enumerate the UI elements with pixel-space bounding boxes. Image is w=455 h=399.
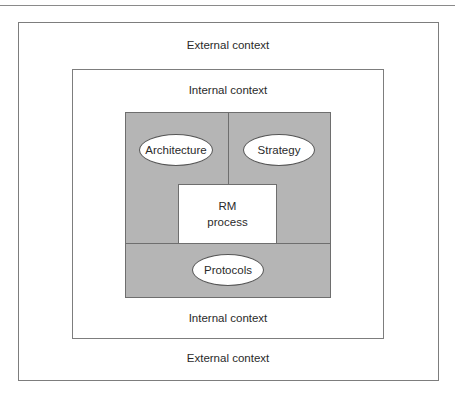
vertical-divider (228, 112, 229, 184)
internal-context-top-label: Internal context (189, 84, 268, 96)
rm-process-line1: RM (219, 198, 237, 214)
rm-process-box: RM process (178, 184, 277, 244)
external-context-bottom-label: External context (187, 352, 269, 364)
strategy-node: Strategy (243, 134, 315, 166)
architecture-node: Architecture (139, 134, 213, 166)
protocols-node: Protocols (192, 254, 264, 286)
protocols-label: Protocols (204, 264, 252, 276)
internal-context-bottom-label: Internal context (189, 312, 268, 324)
external-context-top-label: External context (187, 39, 269, 51)
rm-process-line2: process (207, 214, 247, 230)
architecture-label: Architecture (145, 144, 206, 156)
strategy-label: Strategy (258, 144, 301, 156)
top-rule (0, 5, 455, 6)
